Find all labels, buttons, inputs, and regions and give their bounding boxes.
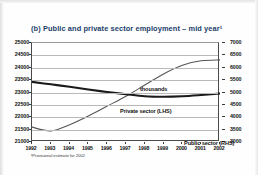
gridline bbox=[32, 105, 218, 106]
gridline bbox=[32, 130, 218, 131]
y-tick-label-left: 22000 bbox=[15, 113, 29, 119]
y-tick-label-left: 22500 bbox=[15, 101, 29, 107]
y-tick-mark-right bbox=[222, 92, 225, 93]
y-tick-mark-right bbox=[222, 79, 225, 80]
series-line-public-sector bbox=[32, 82, 220, 97]
gridline bbox=[32, 117, 218, 118]
chart-footnote: ¹Provisional estimate for 2002 bbox=[31, 153, 85, 158]
y-tick-label-left: 24000 bbox=[15, 64, 29, 70]
y-tick-label-left: 23500 bbox=[15, 76, 29, 82]
x-tick-label: 1995 bbox=[82, 145, 93, 151]
x-tick-mark bbox=[200, 142, 201, 144]
y-tick-label-right: 6500 bbox=[230, 51, 241, 57]
y-tick-label-right: 5500 bbox=[230, 76, 241, 82]
gridline bbox=[32, 68, 218, 69]
x-tick-mark bbox=[144, 142, 145, 144]
x-tick-label: 2001 bbox=[195, 145, 206, 151]
x-tick-label: 1996 bbox=[101, 145, 112, 151]
y-tick-label-right: 3500 bbox=[230, 126, 241, 132]
x-tick-label: 1997 bbox=[120, 145, 131, 151]
x-tick-label: 1992 bbox=[26, 145, 37, 151]
y-tick-mark-right bbox=[222, 54, 225, 55]
x-tick-mark bbox=[163, 142, 164, 144]
x-tick-label: 1998 bbox=[138, 145, 149, 151]
y-tick-label-right: 4500 bbox=[230, 101, 241, 107]
scan-edge-right bbox=[255, 0, 258, 175]
gridline bbox=[32, 55, 218, 56]
x-tick-label: 2000 bbox=[176, 145, 187, 151]
y-tick-label-left: 21500 bbox=[15, 126, 29, 132]
y-axis-left: 2100021500220002250023000235002400024500… bbox=[2, 42, 29, 141]
y-tick-mark-right bbox=[222, 104, 225, 105]
y-tick-label-left: 23000 bbox=[15, 89, 29, 95]
x-tick-mark bbox=[50, 142, 51, 144]
y-tick-label-left: 25000 bbox=[15, 39, 29, 45]
y-tick-label-left: 21000 bbox=[15, 138, 29, 144]
plot-area: thousands Private sector (LHS) Public se… bbox=[31, 42, 219, 141]
y-tick-label-left: 24500 bbox=[15, 51, 29, 57]
x-tick-mark bbox=[181, 142, 182, 144]
y-tick-label-right: 4000 bbox=[230, 113, 241, 119]
scan-edge-top bbox=[0, 0, 258, 3]
y-tick-mark-right bbox=[222, 42, 225, 43]
y-tick-label-right: 7000 bbox=[230, 39, 241, 45]
x-tick-mark bbox=[69, 142, 70, 144]
y-tick-label-right: 6000 bbox=[230, 64, 241, 70]
x-tick-mark bbox=[125, 142, 126, 144]
y-tick-label-right: 5000 bbox=[230, 89, 241, 95]
x-tick-mark bbox=[219, 142, 220, 144]
x-tick-mark bbox=[31, 142, 32, 144]
units-label: thousands bbox=[140, 86, 167, 92]
chart-title: (b) Public and private sector employment… bbox=[31, 24, 222, 33]
y-axis-right: 300035004000450050005500600065007000 bbox=[222, 42, 254, 141]
x-tick-label: 1994 bbox=[63, 145, 74, 151]
x-tick-mark bbox=[87, 142, 88, 144]
y-tick-mark-right bbox=[222, 129, 225, 130]
series-label-private-sector: Private sector (LHS) bbox=[120, 108, 171, 114]
x-tick-label: 2002 bbox=[214, 145, 225, 151]
x-tick-label: 1993 bbox=[44, 145, 55, 151]
gridline bbox=[32, 93, 218, 94]
x-tick-label: 1999 bbox=[157, 145, 168, 151]
x-tick-mark bbox=[106, 142, 107, 144]
gridline bbox=[32, 80, 218, 81]
y-tick-mark-right bbox=[222, 67, 225, 68]
chart-figure: (b) Public and private sector employment… bbox=[0, 0, 258, 175]
y-tick-mark-right bbox=[222, 116, 225, 117]
